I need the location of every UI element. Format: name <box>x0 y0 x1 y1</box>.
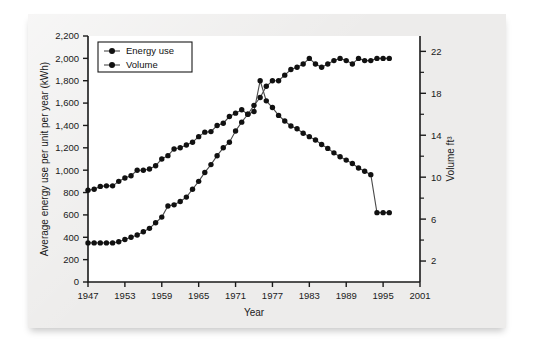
y-tick-label: 2,200 <box>55 30 79 41</box>
data-point-volume <box>134 232 139 237</box>
data-point-volume <box>141 229 146 234</box>
x-tick-label: 1965 <box>188 290 209 301</box>
data-point-energy-use <box>380 210 385 215</box>
data-point-energy-use <box>147 166 152 171</box>
x-tick-label: 1995 <box>373 290 394 301</box>
data-point-energy-use <box>300 131 305 136</box>
data-point-energy-use <box>362 169 367 174</box>
data-point-volume <box>110 240 115 245</box>
data-point-volume <box>122 237 127 242</box>
data-point-energy-use <box>214 123 219 128</box>
x-tick-label: 1959 <box>151 290 172 301</box>
data-point-volume <box>374 56 379 61</box>
y2-tick-label: 14 <box>431 130 442 141</box>
data-point-volume <box>294 65 299 70</box>
data-point-volume <box>313 61 318 66</box>
data-point-energy-use <box>165 153 170 158</box>
plot-area-background <box>88 36 420 282</box>
data-point-volume <box>387 56 392 61</box>
data-point-volume <box>178 199 183 204</box>
data-point-energy-use <box>104 183 109 188</box>
data-point-energy-use <box>122 175 127 180</box>
data-point-energy-use <box>190 140 195 145</box>
data-point-volume <box>362 58 367 63</box>
data-point-volume <box>344 58 349 63</box>
data-point-volume <box>184 194 189 199</box>
data-point-energy-use <box>368 172 373 177</box>
y-tick-label: 1,800 <box>55 75 79 86</box>
data-point-energy-use <box>178 145 183 150</box>
data-point-energy-use <box>171 146 176 151</box>
chart-container: 02004006008001,0001,2001,4001,6001,8002,… <box>28 14 506 328</box>
y-tick-label: 800 <box>63 187 79 198</box>
y-tick-label: 1,200 <box>55 142 79 153</box>
data-point-volume <box>270 78 275 83</box>
data-point-energy-use <box>196 134 201 139</box>
data-point-volume <box>165 203 170 208</box>
y-tick-label: 600 <box>63 209 79 220</box>
data-point-energy-use <box>344 157 349 162</box>
data-point-volume <box>159 214 164 219</box>
x-tick-label: 2001 <box>409 290 430 301</box>
data-point-energy-use <box>313 137 318 142</box>
data-point-volume <box>116 239 121 244</box>
line-chart: 02004006008001,0001,2001,4001,6001,8002,… <box>28 14 506 328</box>
legend-marker-0 <box>109 48 115 54</box>
legend-marker-1 <box>109 62 115 68</box>
data-point-volume <box>245 112 250 117</box>
y-axis-title: Average energy use per unit per year (kW… <box>39 62 50 256</box>
y-tick-label: 1,600 <box>55 97 79 108</box>
data-point-energy-use <box>251 109 256 114</box>
data-point-energy-use <box>202 129 207 134</box>
x-tick-label: 1983 <box>299 290 320 301</box>
data-point-energy-use <box>387 210 392 215</box>
data-point-energy-use <box>110 183 115 188</box>
data-point-energy-use <box>208 129 213 134</box>
data-point-energy-use <box>307 134 312 139</box>
legend-label-0: Energy use <box>126 45 174 56</box>
data-point-volume <box>98 240 103 245</box>
data-point-volume <box>276 78 281 83</box>
data-point-volume <box>227 140 232 145</box>
data-point-energy-use <box>331 150 336 155</box>
data-point-volume <box>319 65 324 70</box>
data-point-volume <box>91 240 96 245</box>
data-point-volume <box>147 226 152 231</box>
x-axis-title: Year <box>244 307 265 318</box>
y2-tick-label: 18 <box>431 88 442 99</box>
data-point-energy-use <box>257 78 262 83</box>
y2-tick-label: 10 <box>431 172 442 183</box>
data-point-volume <box>202 170 207 175</box>
data-point-volume <box>288 67 293 72</box>
data-point-volume <box>85 240 90 245</box>
y-tick-label: 1,000 <box>55 165 79 176</box>
x-tick-label: 1953 <box>114 290 135 301</box>
data-point-energy-use <box>337 154 342 159</box>
data-point-volume <box>251 103 256 108</box>
data-point-energy-use <box>134 167 139 172</box>
data-point-energy-use <box>350 161 355 166</box>
y-tick-label: 0 <box>74 276 79 287</box>
y-tick-label: 2,000 <box>55 53 79 64</box>
data-point-volume <box>325 61 330 66</box>
data-point-volume <box>257 95 262 100</box>
data-point-energy-use <box>319 142 324 147</box>
data-point-volume <box>337 56 342 61</box>
data-point-energy-use <box>153 163 158 168</box>
data-point-energy-use <box>276 113 281 118</box>
y2-tick-label: 2 <box>431 255 436 266</box>
data-point-energy-use <box>233 110 238 115</box>
x-tick-label: 1947 <box>77 290 98 301</box>
x-tick-label: 1977 <box>262 290 283 301</box>
data-point-energy-use <box>288 123 293 128</box>
data-point-energy-use <box>264 98 269 103</box>
data-point-energy-use <box>98 184 103 189</box>
y-tick-label: 1,400 <box>55 120 79 131</box>
data-point-energy-use <box>184 142 189 147</box>
data-point-energy-use <box>159 156 164 161</box>
data-point-volume <box>331 58 336 63</box>
data-point-energy-use <box>282 118 287 123</box>
data-point-volume <box>190 187 195 192</box>
x-tick-label: 1971 <box>225 290 246 301</box>
data-point-energy-use <box>270 105 275 110</box>
